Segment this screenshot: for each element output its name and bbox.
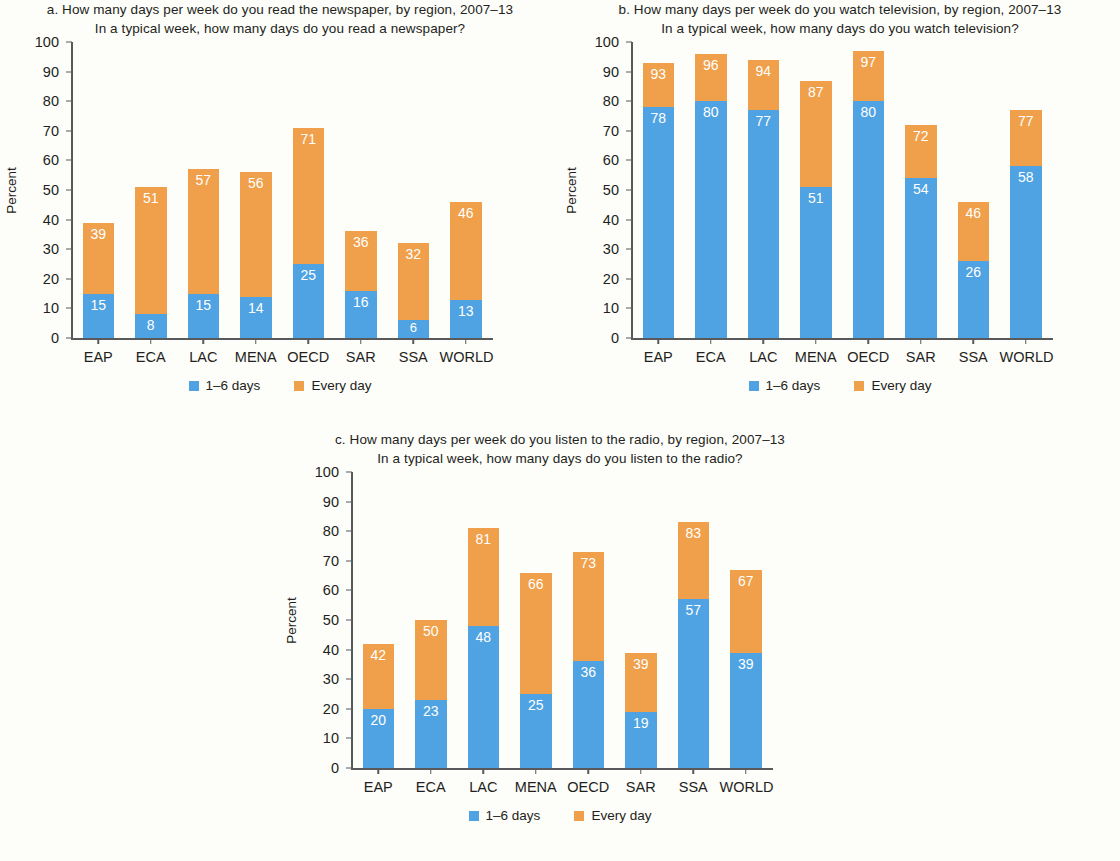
bar-segment-1-6-days[interactable]: 23 — [415, 700, 447, 768]
stacked-bar[interactable]: 3616 — [345, 42, 377, 338]
bar-segment-1-6-days[interactable]: 58 — [1010, 166, 1042, 338]
bar-group[interactable]: 5715 — [177, 42, 230, 338]
bar-segment-1-6-days[interactable]: 6 — [398, 320, 430, 338]
bar-segment-every-day[interactable]: 71 — [293, 128, 325, 264]
bar-group[interactable]: 7254 — [895, 42, 948, 338]
bar-segment-every-day[interactable]: 36 — [345, 231, 377, 290]
stacked-bar[interactable]: 8751 — [800, 42, 832, 338]
bar-segment-every-day[interactable]: 81 — [468, 528, 500, 626]
stacked-bar[interactable]: 9378 — [643, 42, 675, 338]
bar-group[interactable]: 8357 — [667, 472, 720, 768]
bar-segment-every-day[interactable]: 66 — [520, 573, 552, 694]
bar-segment-every-day[interactable]: 94 — [748, 60, 780, 110]
bar-segment-every-day[interactable]: 50 — [415, 620, 447, 700]
bar-segment-every-day[interactable]: 51 — [135, 187, 167, 314]
stacked-bar[interactable]: 3915 — [83, 42, 115, 338]
bar-segment-every-day[interactable]: 39 — [83, 223, 115, 294]
bar-group[interactable]: 4613 — [440, 42, 493, 338]
stacked-bar[interactable]: 7125 — [293, 42, 325, 338]
stacked-bar[interactable]: 9680 — [695, 42, 727, 338]
bar-segment-1-6-days[interactable]: 15 — [83, 294, 115, 338]
bar-segment-every-day[interactable]: 57 — [188, 169, 220, 293]
bar-group[interactable]: 9378 — [632, 42, 685, 338]
bar-segment-every-day[interactable]: 93 — [643, 63, 675, 107]
bar-group[interactable]: 326 — [387, 42, 440, 338]
bar-segment-1-6-days[interactable]: 78 — [643, 107, 675, 338]
bar-segment-1-6-days[interactable]: 16 — [345, 291, 377, 338]
stacked-bar[interactable]: 5614 — [240, 42, 272, 338]
bar-group[interactable]: 5023 — [405, 472, 458, 768]
bar-group[interactable]: 3919 — [615, 472, 668, 768]
bar-group[interactable]: 518 — [125, 42, 178, 338]
bar-group[interactable]: 9680 — [685, 42, 738, 338]
stacked-bar[interactable]: 6739 — [730, 472, 762, 768]
bar-segment-1-6-days[interactable]: 19 — [625, 712, 657, 768]
bar-segment-1-6-days[interactable]: 36 — [573, 661, 605, 768]
bar-segment-every-day[interactable]: 56 — [240, 172, 272, 296]
bar-segment-every-day[interactable]: 96 — [695, 54, 727, 101]
y-axis-tick-label: 90 — [323, 494, 339, 509]
bar-segment-every-day[interactable]: 39 — [625, 653, 657, 712]
bar-group[interactable]: 8148 — [457, 472, 510, 768]
bar-group[interactable]: 4220 — [352, 472, 405, 768]
bar-segment-every-day[interactable]: 32 — [398, 243, 430, 320]
bar-segment-every-day[interactable]: 46 — [958, 202, 990, 261]
stacked-bar[interactable]: 326 — [398, 42, 430, 338]
stacked-bar[interactable]: 6625 — [520, 472, 552, 768]
stacked-bar[interactable]: 9477 — [748, 42, 780, 338]
bar-segment-label: 19 — [625, 716, 657, 730]
bar-segment-1-6-days[interactable]: 39 — [730, 653, 762, 768]
bar-group[interactable]: 8751 — [790, 42, 843, 338]
bar-segment-1-6-days[interactable]: 54 — [905, 178, 937, 338]
bar-group[interactable]: 9477 — [737, 42, 790, 338]
bar-group[interactable]: 7758 — [1000, 42, 1053, 338]
bar-group[interactable]: 7125 — [282, 42, 335, 338]
stacked-bar[interactable]: 4220 — [363, 472, 395, 768]
bar-group[interactable]: 6739 — [720, 472, 773, 768]
bar-segment-1-6-days[interactable]: 80 — [853, 101, 885, 338]
bar-segment-1-6-days[interactable]: 26 — [958, 261, 990, 338]
stacked-bar[interactable]: 518 — [135, 42, 167, 338]
bar-segment-1-6-days[interactable]: 25 — [520, 694, 552, 768]
stacked-bar[interactable]: 7336 — [573, 472, 605, 768]
bar-segment-1-6-days[interactable]: 25 — [293, 264, 325, 338]
bar-group[interactable]: 3616 — [335, 42, 388, 338]
bar-segment-1-6-days[interactable]: 51 — [800, 187, 832, 338]
bar-segment-every-day[interactable]: 72 — [905, 125, 937, 178]
bar-segment-1-6-days[interactable]: 13 — [450, 300, 482, 338]
bar-group[interactable]: 3915 — [72, 42, 125, 338]
stacked-bar[interactable]: 4626 — [958, 42, 990, 338]
bar-segment-1-6-days[interactable]: 48 — [468, 626, 500, 768]
panel-b-title: b. How many days per week do you watch t… — [566, 0, 1114, 19]
bar-segment-1-6-days[interactable]: 57 — [678, 599, 710, 768]
bar-segment-1-6-days[interactable]: 80 — [695, 101, 727, 338]
x-axis-tick-label: SSA — [947, 344, 1000, 365]
bar-segment-every-day[interactable]: 83 — [678, 522, 710, 599]
bar-segment-1-6-days[interactable]: 77 — [748, 110, 780, 338]
stacked-bar[interactable]: 9780 — [853, 42, 885, 338]
bar-group[interactable]: 4626 — [947, 42, 1000, 338]
bar-segment-every-day[interactable]: 42 — [363, 644, 395, 709]
stacked-bar[interactable]: 3919 — [625, 472, 657, 768]
stacked-bar[interactable]: 7758 — [1010, 42, 1042, 338]
stacked-bar[interactable]: 7254 — [905, 42, 937, 338]
bar-segment-every-day[interactable]: 87 — [800, 81, 832, 188]
bar-segment-1-6-days[interactable]: 8 — [135, 314, 167, 338]
bar-segment-every-day[interactable]: 73 — [573, 552, 605, 662]
stacked-bar[interactable]: 5023 — [415, 472, 447, 768]
bar-segment-1-6-days[interactable]: 15 — [188, 294, 220, 338]
stacked-bar[interactable]: 8148 — [468, 472, 500, 768]
bar-segment-every-day[interactable]: 77 — [1010, 110, 1042, 166]
bar-group[interactable]: 5614 — [230, 42, 283, 338]
stacked-bar[interactable]: 5715 — [188, 42, 220, 338]
bar-group[interactable]: 9780 — [842, 42, 895, 338]
bar-segment-1-6-days[interactable]: 14 — [240, 297, 272, 338]
stacked-bar[interactable]: 4613 — [450, 42, 482, 338]
bar-group[interactable]: 7336 — [562, 472, 615, 768]
stacked-bar[interactable]: 8357 — [678, 472, 710, 768]
bar-segment-every-day[interactable]: 97 — [853, 51, 885, 101]
bar-segment-every-day[interactable]: 46 — [450, 202, 482, 300]
bar-segment-1-6-days[interactable]: 20 — [363, 709, 395, 768]
bar-group[interactable]: 6625 — [510, 472, 563, 768]
bar-segment-every-day[interactable]: 67 — [730, 570, 762, 653]
